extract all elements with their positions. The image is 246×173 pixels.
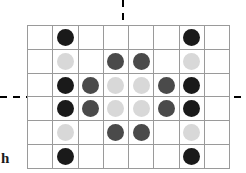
grid-row [28,97,230,121]
grid-dot-dark [57,29,74,46]
grid-dot-dark [183,29,200,46]
grid-dot-light [183,53,200,70]
grid-cell[interactable] [129,145,154,169]
vertical-axis-dashed-top [122,0,124,25]
grid-dot-light [57,53,74,70]
grid-cell[interactable] [78,73,103,97]
grid-cell[interactable] [53,97,78,121]
grid-cell[interactable] [28,49,53,73]
grid-cell[interactable] [154,97,179,121]
grid-cell[interactable] [78,145,103,169]
grid-cell[interactable] [179,97,204,121]
grid-dot-dark [57,100,74,117]
grid-dot-dark [57,77,74,94]
grid-dot-mid [133,53,150,70]
grid-row [28,121,230,145]
grid-dot-mid [158,100,175,117]
grid-dot-mid [107,124,124,141]
grid-cell[interactable] [28,97,53,121]
grid-cell[interactable] [179,49,204,73]
grid-cell[interactable] [179,145,204,169]
grid-cell[interactable] [204,26,229,50]
grid-cell[interactable] [28,121,53,145]
grid-dot-mid [82,77,99,94]
grid-cell[interactable] [53,73,78,97]
grid-dot-light [107,77,124,94]
grid-cell[interactable] [28,73,53,97]
grid-dot-mid [82,100,99,117]
corner-label: h [1,148,17,168]
grid-cell[interactable] [154,49,179,73]
grid-cell[interactable] [103,49,128,73]
grid-cell[interactable] [154,26,179,50]
grid-cell[interactable] [129,73,154,97]
grid-cell[interactable] [28,26,53,50]
grid-dot-dark [57,148,74,165]
grid-row [28,26,230,50]
grid-cell[interactable] [179,73,204,97]
grid-dot-dark [183,148,200,165]
grid-row [28,49,230,73]
grid-cell[interactable] [154,145,179,169]
grid-cell[interactable] [28,145,53,169]
grid-dot-light [183,124,200,141]
grid-cell[interactable] [103,121,128,145]
grid-dot-mid [107,53,124,70]
grid-cell[interactable] [53,121,78,145]
grid-cell[interactable] [103,73,128,97]
grid-dot-light [107,100,124,117]
grid-cell[interactable] [154,73,179,97]
grid-cell[interactable] [103,26,128,50]
lattice-grid [27,25,221,162]
grid-cell[interactable] [78,49,103,73]
figure-canvas: h [0,0,246,173]
grid-table [27,25,230,169]
grid-dot-dark [183,100,200,117]
grid-cell[interactable] [129,26,154,50]
grid-cell[interactable] [154,121,179,145]
grid-cell[interactable] [179,26,204,50]
grid-cell[interactable] [53,49,78,73]
grid-dot-mid [158,77,175,94]
grid-cell[interactable] [204,97,229,121]
grid-dot-mid [133,124,150,141]
grid-cell[interactable] [78,121,103,145]
grid-dot-light [57,124,74,141]
grid-row [28,73,230,97]
grid-cell[interactable] [204,145,229,169]
grid-cell[interactable] [204,49,229,73]
grid-row [28,145,230,169]
grid-cell[interactable] [129,121,154,145]
grid-cell[interactable] [53,145,78,169]
horizontal-axis-dashed-left [0,96,27,98]
grid-cell[interactable] [204,121,229,145]
grid-cell[interactable] [103,145,128,169]
grid-dot-dark [183,77,200,94]
grid-cell[interactable] [103,97,128,121]
grid-cell[interactable] [129,49,154,73]
grid-dot-light [133,100,150,117]
grid-cell[interactable] [78,26,103,50]
grid-cell[interactable] [53,26,78,50]
grid-dot-light [133,77,150,94]
grid-cell[interactable] [179,121,204,145]
grid-cell[interactable] [204,73,229,97]
grid-cell[interactable] [129,97,154,121]
grid-cell[interactable] [78,97,103,121]
